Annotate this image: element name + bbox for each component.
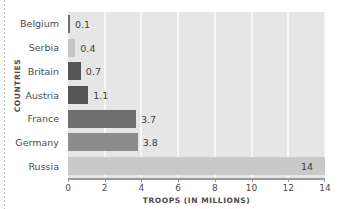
x-axis-tick [215,178,216,182]
x-axis-tick-label: 2 [102,183,108,193]
bar [68,39,75,57]
bar [68,62,81,80]
y-axis-tick-label: Russia [8,154,64,178]
bar-chart: COUNTRIES BelgiumSerbiaBritainAustriaFra… [0,0,338,209]
y-axis-tick-label: Austria [8,83,64,107]
x-axis-tick [68,178,69,182]
x-axis-tick [105,178,106,182]
bar-value-label: 0.7 [86,66,101,77]
bar-value-label: 0.1 [75,18,90,29]
x-axis-tick [141,178,142,182]
plot-area: 0.10.40.71.13.73.814 [68,12,325,178]
bar-row: 0.7 [68,59,325,83]
y-axis-tick-labels: BelgiumSerbiaBritainAustriaFranceGermany… [8,12,64,178]
bar-row: 3.7 [68,107,325,131]
x-axis-tick [252,178,253,182]
y-axis-tick-label: France [8,107,64,131]
bar [68,86,88,104]
bar-value-label: 1.1 [93,90,108,101]
bar-value-label: 14 [301,161,313,172]
x-axis-tick-label: 10 [246,183,257,193]
bar [68,110,136,128]
x-axis-line [68,178,325,180]
x-axis-title: TROOPS (IN MILLIONS) [68,196,325,205]
bar-row: 0.1 [68,12,325,36]
bar-value-label: 3.7 [141,113,156,124]
x-axis-tick-label: 8 [212,183,218,193]
x-axis-tick-label: 4 [139,183,145,193]
bar-series: 0.10.40.71.13.73.814 [68,12,325,178]
bar-value-label: 3.8 [143,137,158,148]
y-axis-tick-label: Belgium [8,12,64,36]
x-axis-tick-label: 12 [283,183,294,193]
y-axis-tick-label: Germany [8,131,64,155]
bar [68,15,70,33]
y-axis-tick-label: Britain [8,59,64,83]
bar [68,133,138,151]
x-axis-tick [288,178,289,182]
bar-row: 14 [68,154,325,178]
x-axis-tick-label: 14 [319,183,330,193]
figure-left-dotted-rule [4,0,5,209]
bar-value-label: 0.4 [80,42,95,53]
x-axis-tick-label: 0 [65,183,71,193]
bar-row: 3.8 [68,131,325,155]
y-axis-tick-label: Serbia [8,36,64,60]
bar-row: 0.4 [68,36,325,60]
bar-row: 1.1 [68,83,325,107]
x-axis-tick [178,178,179,182]
x-axis-tick-label: 6 [175,183,181,193]
bar [68,157,325,175]
x-axis-tick [324,178,325,182]
